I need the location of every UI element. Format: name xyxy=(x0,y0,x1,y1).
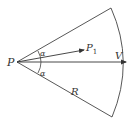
label-radius-r: R xyxy=(70,86,79,97)
label-angle-top: α xyxy=(40,49,46,58)
sector-arc xyxy=(111,8,123,117)
label-origin-p: P xyxy=(6,56,15,69)
sector-bottom-edge xyxy=(17,62,112,117)
label-angle-bottom: α xyxy=(40,69,46,78)
label-p1: P1 xyxy=(85,42,97,56)
sector-diagram: P α α P1 V R xyxy=(0,0,133,125)
